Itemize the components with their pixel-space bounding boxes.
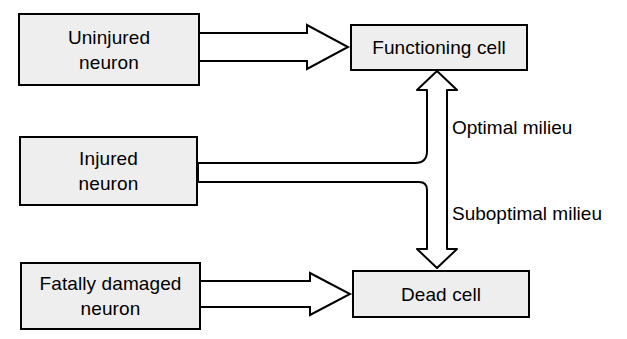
node-uninjured-neuron[interactable]: Uninjured neuron — [18, 13, 200, 86]
edge-label-optimal-milieu: Optimal milieu — [452, 117, 572, 139]
diagram-canvas: Uninjured neuron Functioning cell Injure… — [0, 0, 627, 339]
node-functioning-cell[interactable]: Functioning cell — [350, 24, 528, 71]
connector-injured-fork-bidirectional — [198, 71, 457, 268]
connector-fatally-damaged-to-dead — [200, 273, 350, 315]
node-injured-neuron-label: Injured neuron — [21, 146, 196, 196]
edge-label-suboptimal-milieu: Suboptimal milieu — [452, 203, 602, 225]
node-fatally-damaged-neuron[interactable]: Fatally damaged neuron — [20, 262, 201, 330]
node-injured-neuron[interactable]: Injured neuron — [19, 136, 198, 206]
node-dead-cell-label: Dead cell — [354, 282, 528, 307]
connector-uninjured-to-functioning — [198, 25, 348, 69]
node-functioning-cell-label: Functioning cell — [352, 35, 526, 60]
node-dead-cell[interactable]: Dead cell — [352, 270, 530, 318]
node-fatally-damaged-neuron-label: Fatally damaged neuron — [22, 271, 199, 321]
node-uninjured-neuron-label: Uninjured neuron — [20, 25, 198, 75]
